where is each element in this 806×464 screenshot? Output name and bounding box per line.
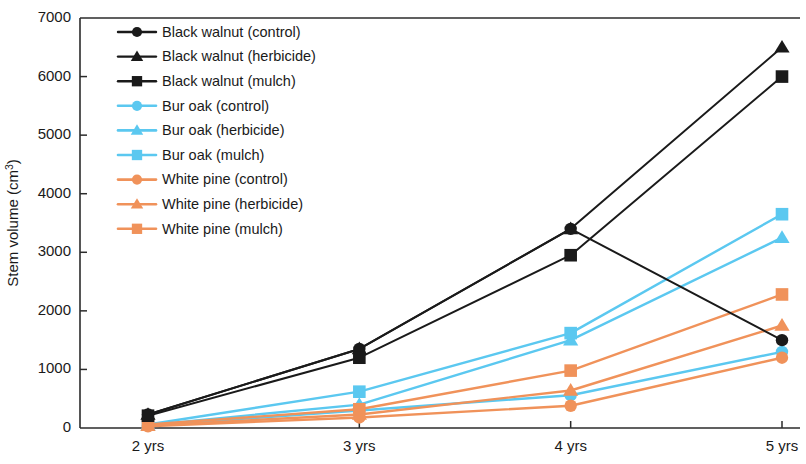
legend-label: Bur oak (control): [162, 98, 269, 114]
legend-label: White pine (herbicide): [162, 196, 303, 212]
legend-label: White pine (mulch): [162, 221, 283, 237]
series-line: [148, 238, 782, 425]
legend-item-white-pine-control[interactable]: White pine (control): [118, 171, 288, 187]
data-point-circle: [132, 27, 142, 37]
chart-legend: Black walnut (control)Black walnut (herb…: [118, 24, 316, 237]
data-point-square: [564, 327, 577, 340]
data-point-square: [142, 409, 155, 422]
data-point-circle: [564, 400, 576, 412]
legend-item-black-walnut-mulch[interactable]: Black walnut (mulch): [118, 73, 296, 89]
data-point-triangle: [774, 230, 789, 243]
series-line: [148, 229, 782, 415]
x-tick-label: 5 yrs: [766, 437, 799, 454]
data-point-triangle: [774, 318, 789, 331]
y-tick-label: 2000: [38, 301, 71, 318]
series-line: [148, 214, 782, 424]
data-point-square: [132, 150, 142, 160]
y-tick-label: 5000: [38, 125, 71, 142]
legend-item-bur-oak-herbicide[interactable]: Bur oak (herbicide): [118, 122, 285, 138]
y-tick-label: 1000: [38, 359, 71, 376]
data-point-square: [353, 403, 366, 416]
series-bur-oak-mulch: [142, 208, 789, 431]
series-white-pine-herbicide: [140, 318, 789, 431]
y-axis-title: Stem volume (cm3): [3, 159, 21, 287]
legend-label: Black walnut (mulch): [162, 73, 296, 89]
series-line: [148, 294, 782, 424]
series-bur-oak-herbicide: [140, 230, 789, 430]
data-point-circle: [132, 175, 142, 185]
legend-label: Bur oak (herbicide): [162, 122, 285, 138]
legend-item-white-pine-herbicide[interactable]: White pine (herbicide): [118, 196, 303, 212]
data-point-square: [132, 224, 142, 234]
data-point-square: [353, 351, 366, 364]
data-point-circle: [132, 101, 142, 111]
legend-label: Black walnut (control): [162, 24, 301, 40]
y-tick-label: 6000: [38, 67, 71, 84]
x-axis-ticks: 2 yrs3 yrs4 yrs5 yrs: [132, 421, 799, 454]
legend-item-bur-oak-control[interactable]: Bur oak (control): [118, 98, 269, 114]
legend-item-black-walnut-herbicide[interactable]: Black walnut (herbicide): [118, 48, 316, 64]
legend-item-black-walnut-control[interactable]: Black walnut (control): [118, 24, 301, 40]
data-point-circle: [776, 334, 788, 346]
line-chart-canvas: 010002000300040005000600070002 yrs3 yrs4…: [0, 0, 806, 464]
data-point-square: [353, 385, 366, 398]
data-point-square: [564, 364, 577, 377]
data-point-triangle: [774, 40, 789, 53]
legend-label: Black walnut (herbicide): [162, 48, 316, 64]
y-tick-label: 4000: [38, 184, 71, 201]
legend-label: Bur oak (mulch): [162, 147, 264, 163]
data-point-circle: [776, 352, 788, 364]
y-tick-label: 0: [63, 418, 71, 435]
data-point-square: [776, 208, 789, 221]
legend-item-white-pine-mulch[interactable]: White pine (mulch): [118, 221, 283, 237]
y-tick-label: 7000: [38, 8, 71, 25]
legend-item-bur-oak-mulch[interactable]: Bur oak (mulch): [118, 147, 264, 163]
data-point-square: [564, 249, 577, 262]
data-point-square: [776, 70, 789, 83]
data-point-square: [776, 288, 789, 301]
y-tick-label: 3000: [38, 242, 71, 259]
x-tick-label: 3 yrs: [343, 437, 376, 454]
legend-label: White pine (control): [162, 171, 288, 187]
data-point-square: [132, 76, 142, 86]
chart-figure: 010002000300040005000600070002 yrs3 yrs4…: [0, 0, 806, 464]
x-tick-label: 2 yrs: [132, 437, 165, 454]
x-tick-label: 4 yrs: [554, 437, 587, 454]
